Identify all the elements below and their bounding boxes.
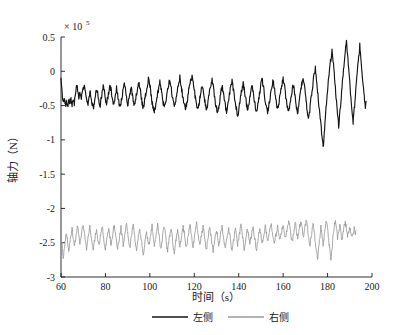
x-axis-title: 时间（s） <box>192 291 240 303</box>
y-tick-label: -0.5 <box>39 100 55 111</box>
chart-legend: 左侧 右侧 <box>152 311 289 323</box>
axial-force-time-chart: × 10 5 0.50-0.5-1-1.5-2-2.5-3 6080100120… <box>0 0 395 335</box>
legend-label-left: 左侧 <box>193 311 213 323</box>
y-axis-multiplier-base: × 10 <box>64 21 82 32</box>
y-axis-multiplier: × 10 5 <box>64 19 90 32</box>
y-tick-label: -3 <box>47 272 55 283</box>
y-tick-label: -1 <box>47 134 55 145</box>
x-axis-ticks: 6080100120140160180200 <box>56 273 380 292</box>
y-tick-label: -1.5 <box>39 169 55 180</box>
y-tick-label: -2.5 <box>39 237 55 248</box>
y-axis-multiplier-exponent: 5 <box>86 19 90 27</box>
x-tick-label: 160 <box>276 281 291 292</box>
chart-canvas: × 10 5 0.50-0.5-1-1.5-2-2.5-3 6080100120… <box>0 0 395 335</box>
x-tick-label: 80 <box>100 281 110 292</box>
y-axis-title: 轴力（N） <box>6 131 19 183</box>
x-tick-label: 180 <box>320 281 335 292</box>
x-tick-label: 100 <box>142 281 157 292</box>
x-tick-label: 200 <box>365 281 380 292</box>
y-tick-label: -2 <box>47 203 55 214</box>
y-tick-label: 0.5 <box>43 32 56 43</box>
y-tick-label: 0 <box>50 66 55 77</box>
legend-label-right: 右侧 <box>269 311 289 323</box>
series-line-right <box>61 220 356 260</box>
x-tick-label: 60 <box>56 281 66 292</box>
series-line-left <box>61 40 366 146</box>
